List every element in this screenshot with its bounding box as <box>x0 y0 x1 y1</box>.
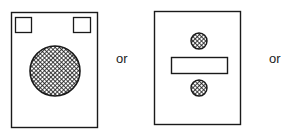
or-label-2: or <box>269 52 281 65</box>
diagram-canvas <box>0 0 293 134</box>
small-square-left <box>16 18 32 33</box>
or-label-1: or <box>116 52 128 65</box>
small-square-right <box>74 18 91 33</box>
horizontal-bar <box>172 58 228 74</box>
bottom-hatched-dot <box>191 80 207 96</box>
panel-two <box>155 12 241 125</box>
top-hatched-dot <box>191 33 207 49</box>
large-hatched-circle <box>30 46 80 96</box>
panel-one <box>12 13 98 128</box>
